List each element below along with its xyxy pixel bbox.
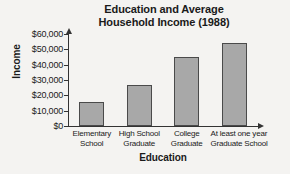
y-axis-label: Income: [11, 32, 22, 92]
category-label-line: College: [163, 129, 211, 139]
x-axis-arrow-icon: [258, 123, 264, 129]
category-label-line: At least one year: [211, 129, 259, 139]
bar-2: [174, 57, 199, 126]
chart-title-line-2: Household Income (1988): [52, 16, 276, 29]
y-tick-label: $0: [53, 121, 63, 131]
y-tick-mark: [64, 111, 68, 112]
category-label-3: At least one yearGraduate School: [211, 129, 259, 148]
y-tick-mark: [64, 49, 68, 50]
category-label-line: High School: [116, 129, 164, 139]
y-tick-label: $50,000: [32, 44, 63, 54]
bar-0: [79, 102, 104, 126]
y-tick-mark: [64, 126, 68, 127]
category-label-line: Graduate: [116, 139, 164, 149]
y-tick-mark: [64, 80, 68, 81]
category-label-1: High SchoolGraduate: [116, 129, 164, 148]
plot-area: $60,000$50,000$40,000$30,000$20,000$10,0…: [68, 34, 264, 126]
category-label-0: ElementarySchool: [68, 129, 116, 148]
bar-3: [222, 43, 247, 126]
x-axis-label: Education: [68, 152, 258, 163]
category-label-line: Graduate School: [211, 139, 259, 149]
y-tick-label: $40,000: [32, 60, 63, 70]
y-axis-line: [68, 34, 69, 126]
bar-chart-figure: Education and Average Household Income (…: [0, 0, 290, 174]
chart-title-line-1: Education and Average: [52, 3, 276, 16]
y-tick-label: $60,000: [32, 29, 63, 39]
y-tick-label: $20,000: [32, 90, 63, 100]
y-tick-mark: [64, 95, 68, 96]
category-label-line: Elementary: [68, 129, 116, 139]
y-tick-label: $10,000: [32, 106, 63, 116]
y-tick-mark: [64, 34, 68, 35]
y-tick-label: $30,000: [32, 75, 63, 85]
category-label-2: CollegeGraduate: [163, 129, 211, 148]
x-axis-line: [68, 126, 258, 127]
y-tick-mark: [64, 65, 68, 66]
category-label-line: School: [68, 139, 116, 149]
chart-title: Education and Average Household Income (…: [52, 3, 276, 28]
bar-1: [127, 85, 152, 126]
category-label-line: Graduate: [163, 139, 211, 149]
